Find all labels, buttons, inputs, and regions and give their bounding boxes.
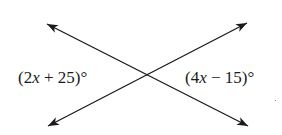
- label-right-open: (4: [185, 68, 199, 87]
- angle-label-left: (2x + 25)°: [18, 69, 87, 86]
- label-left-open: (2: [18, 68, 32, 87]
- label-right-variable: x: [199, 68, 207, 87]
- label-right-rest: − 15)°: [207, 68, 255, 87]
- arrowhead-icon: [235, 23, 247, 32]
- angle-label-right: (4x − 15)°: [185, 69, 254, 86]
- stray-dot: [275, 100, 276, 101]
- arrowhead-icon: [48, 117, 60, 126]
- label-left-rest: + 25)°: [40, 68, 88, 87]
- label-left-variable: x: [32, 68, 40, 87]
